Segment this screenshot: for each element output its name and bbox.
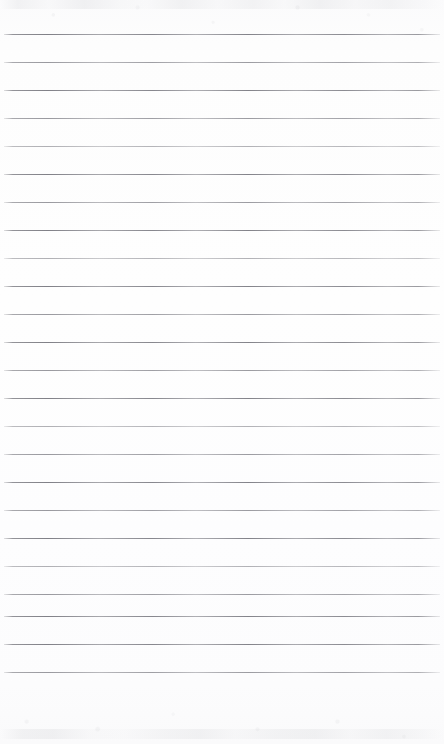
rule-line (4, 174, 440, 175)
rule-line (4, 342, 440, 343)
rule-line (4, 34, 440, 35)
rule-line (4, 644, 440, 645)
scanned-page (0, 0, 444, 744)
rule-line (4, 454, 440, 455)
rule-line (4, 510, 440, 511)
rule-line (4, 672, 440, 673)
rule-line (4, 616, 440, 617)
rule-line (4, 538, 440, 539)
rule-line (4, 146, 440, 147)
rule-line (4, 398, 440, 399)
rule-line (4, 594, 440, 595)
ruled-lines-group (0, 0, 444, 744)
rule-line (4, 426, 440, 427)
rule-line (4, 314, 440, 315)
rule-line (4, 118, 440, 119)
rule-line (4, 202, 440, 203)
rule-line (4, 370, 440, 371)
rule-line (4, 62, 440, 63)
rule-line (4, 230, 440, 231)
rule-line (4, 482, 440, 483)
rule-line (4, 90, 440, 91)
rule-line (4, 566, 440, 567)
rule-line (4, 258, 440, 259)
rule-line (4, 286, 440, 287)
